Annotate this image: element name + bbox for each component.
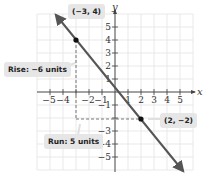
point-label-2-neg2: (2, −2) (160, 113, 197, 128)
run-label: Run: 5 units (44, 134, 103, 149)
svg-text:−2: −2 (81, 95, 94, 105)
svg-text:−5: −5 (42, 95, 56, 105)
x-tick-labels: −5 −4 −2 −1 1 2 3 4 5 (42, 95, 183, 105)
svg-text:5: 5 (105, 22, 111, 32)
rise-label: Rise: −6 units (4, 62, 71, 77)
point-2-neg2 (138, 116, 143, 121)
svg-text:3: 3 (105, 48, 111, 58)
coordinate-plane: −5 −4 −2 −1 1 2 3 4 5 5 4 3 2 1 −1 −3 −4… (0, 0, 205, 184)
svg-text:−4: −4 (56, 95, 70, 105)
point-neg3-4 (73, 37, 78, 42)
svg-text:4: 4 (164, 95, 170, 105)
svg-text:2: 2 (105, 61, 111, 71)
svg-text:2: 2 (138, 95, 144, 105)
svg-text:3: 3 (151, 95, 157, 105)
x-axis-label: x (197, 86, 203, 97)
svg-text:5: 5 (177, 95, 183, 105)
point-label-neg3-4: (−3, 4) (68, 4, 105, 19)
svg-text:4: 4 (105, 35, 111, 45)
svg-text:−1: −1 (98, 100, 111, 110)
svg-text:−5: −5 (98, 152, 112, 162)
y-axis-label: y (111, 1, 118, 12)
